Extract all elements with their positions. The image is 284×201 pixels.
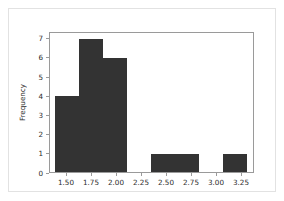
x-tick-label: 3.00 <box>208 178 224 187</box>
histogram-bar <box>223 154 247 173</box>
x-tick-label: 2.00 <box>108 178 124 187</box>
x-tick-label: 3.25 <box>233 178 249 187</box>
x-tick-label: 1.75 <box>83 178 99 187</box>
y-axis-title: Frequency <box>18 83 27 121</box>
x-tick-label: 2.75 <box>183 178 199 187</box>
y-tick-label: 7 <box>38 34 43 43</box>
histogram-bar <box>151 154 175 173</box>
y-tick-label: 6 <box>38 53 43 62</box>
histogram-bar <box>55 96 79 173</box>
histogram-bar <box>175 154 199 173</box>
y-tick-label: 1 <box>38 149 43 158</box>
y-tick-label: 4 <box>38 92 43 101</box>
y-tick-label: 0 <box>38 169 43 178</box>
y-tick-label: 5 <box>38 73 43 82</box>
x-tick-label: 2.50 <box>158 178 174 187</box>
y-tick-label: 2 <box>38 130 43 139</box>
x-axis-ticks: 1.501.752.002.252.502.753.003.25 <box>58 173 249 187</box>
x-tick-label: 2.25 <box>133 178 149 187</box>
histogram-bar <box>79 39 103 173</box>
histogram-bars <box>55 39 247 173</box>
x-tick-label: 1.50 <box>58 178 74 187</box>
histogram-plot: 1.501.752.002.252.502.753.003.25 0123456… <box>9 9 277 193</box>
y-axis-ticks: 01234567 <box>38 34 49 177</box>
figure-card: 1.501.752.002.252.502.753.003.25 0123456… <box>8 8 276 192</box>
histogram-bar <box>103 58 127 173</box>
y-tick-label: 3 <box>38 111 43 120</box>
chart-canvas: 1.501.752.002.252.502.753.003.25 0123456… <box>9 9 277 193</box>
